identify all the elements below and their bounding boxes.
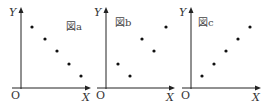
- x-axis-arrow-icon: [255, 86, 261, 91]
- data-point: [79, 74, 82, 77]
- data-point: [152, 49, 155, 52]
- panel-b: Y O X 図b: [94, 6, 175, 104]
- y-axis-label: Y: [94, 6, 103, 19]
- data-point: [43, 37, 46, 40]
- data-point: [164, 25, 167, 28]
- x-axis-label: X: [251, 91, 261, 104]
- panel-title: 図c: [198, 17, 214, 28]
- y-axis-arrow-icon: [189, 7, 194, 13]
- scatter-figure: Y O X 図a Y O X 図b Y O X 図c: [0, 0, 271, 107]
- panel-title: 図b: [115, 17, 131, 28]
- panel-c: Y O X 図c: [179, 6, 261, 104]
- data-point: [140, 37, 143, 40]
- x-axis-arrow-icon: [169, 86, 175, 91]
- data-point: [212, 62, 215, 65]
- data-point: [128, 74, 131, 77]
- y-axis-arrow-icon: [19, 7, 24, 13]
- y-axis-label: Y: [179, 6, 188, 19]
- origin-label: O: [96, 89, 105, 102]
- data-point: [236, 37, 239, 40]
- panel-title: 図a: [66, 21, 82, 32]
- origin-label: O: [11, 89, 20, 102]
- data-point: [55, 49, 58, 52]
- y-axis-arrow-icon: [104, 7, 109, 13]
- data-point: [224, 49, 227, 52]
- x-axis-label: X: [165, 91, 175, 104]
- data-point: [67, 62, 70, 65]
- x-axis-arrow-icon: [85, 86, 91, 91]
- data-point: [248, 25, 251, 28]
- x-axis-label: X: [81, 91, 91, 104]
- origin-label: O: [181, 89, 190, 102]
- data-point: [30, 25, 33, 28]
- panel-a: Y O X 図a: [9, 6, 91, 104]
- data-point: [200, 74, 203, 77]
- data-point: [116, 62, 119, 65]
- y-axis-label: Y: [9, 6, 18, 19]
